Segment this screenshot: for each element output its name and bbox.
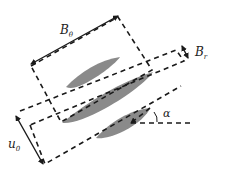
upper-blade — [66, 57, 120, 88]
cascade-diagram: Bθ Br u0 α — [0, 0, 230, 177]
b-r-band — [20, 50, 184, 125]
alpha-arc — [154, 112, 157, 122]
u0-label: u0 — [8, 137, 21, 153]
b-r-arrow — [182, 46, 188, 58]
u0-arrow — [16, 116, 43, 164]
alpha-label: α — [163, 107, 171, 120]
b-r-label: Br — [194, 45, 208, 61]
b-theta-arrow — [31, 16, 118, 64]
b-theta-label: Bθ — [59, 23, 74, 39]
